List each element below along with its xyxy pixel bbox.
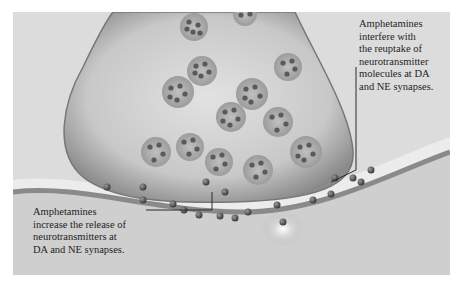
receptor-glow [261, 211, 305, 247]
release-annotation: Amphetamines increase the release of neu… [33, 206, 168, 256]
presynaptic-terminal [64, 12, 353, 202]
reuptake-annotation: Amphetamines interfere with the reuptake… [359, 18, 459, 94]
